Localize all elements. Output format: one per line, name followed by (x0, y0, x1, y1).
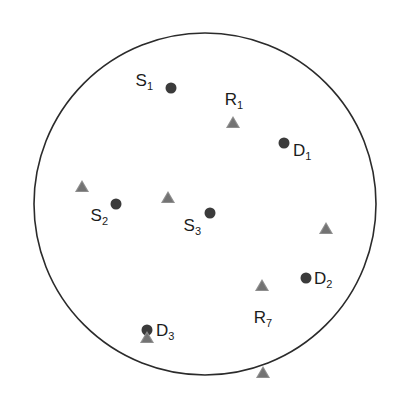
label-subscript: 2 (326, 278, 332, 290)
point-label-s3: S3 (184, 217, 201, 234)
label-base: R (225, 90, 237, 109)
label-subscript: 1 (237, 99, 243, 111)
label-base: D (156, 321, 168, 340)
point-label-r7: R7 (254, 309, 272, 326)
label-subscript: 2 (102, 215, 108, 227)
label-base: D (314, 269, 326, 288)
point-label-d3: D3 (156, 322, 174, 339)
label-base: S (184, 216, 195, 235)
label-base: D (293, 141, 305, 160)
label-base: R (254, 308, 266, 327)
point-label-s1: S1 (136, 72, 153, 89)
scatter-figure: S1R1D1S2S3D2R7D3 (0, 0, 401, 401)
label-subscript: 1 (305, 150, 311, 162)
label-subscript: 1 (147, 80, 153, 92)
label-subscript: 3 (168, 330, 174, 342)
point-label-r1: R1 (225, 91, 243, 108)
label-subscript: 7 (266, 317, 272, 329)
point-label-d1: D1 (293, 142, 311, 159)
label-base: S (136, 71, 147, 90)
point-label-d2: D2 (314, 270, 332, 287)
label-base: S (91, 206, 102, 225)
boundary-circle (34, 33, 376, 375)
point-label-s2: S2 (91, 207, 108, 224)
boundary-circle-svg (0, 0, 401, 401)
label-subscript: 3 (195, 225, 201, 237)
